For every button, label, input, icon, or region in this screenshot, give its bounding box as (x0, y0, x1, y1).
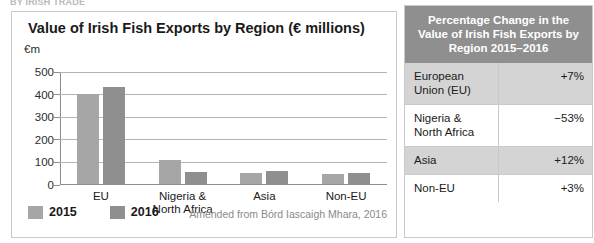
chart-panel: Value of Irish Fish Exports by Region (€… (11, 11, 397, 238)
table-cell-value: +3% (499, 175, 593, 203)
bar-2016-eu (103, 87, 125, 184)
y-tick-mark (54, 162, 60, 163)
bar-2015-asia (240, 173, 262, 184)
table-cell-region: Nigeria & North Africa (405, 105, 499, 147)
legend-item-2015: 2015 (28, 205, 77, 219)
bar-2015-nigerianorthafrica (159, 160, 181, 184)
table-cell-value: +12% (499, 147, 593, 175)
y-tick-label: 200 (35, 134, 54, 146)
y-tick-mark (54, 185, 60, 186)
gridline (60, 72, 387, 73)
legend-label-2016: 2016 (131, 205, 159, 219)
table-cell-value: −53% (499, 105, 593, 147)
bar-2016-nigerianorthafrica (185, 172, 207, 184)
y-tick-mark (54, 94, 60, 95)
x-axis-line (60, 184, 387, 185)
y-tick-label: 300 (35, 111, 54, 123)
bar-2016-asia (266, 171, 288, 184)
bar-2015-eu (77, 94, 99, 184)
y-axis-label: €m (24, 43, 40, 55)
y-tick-mark (54, 139, 60, 140)
chart-title: Value of Irish Fish Exports by Region (€… (28, 20, 365, 36)
y-axis-line (60, 72, 61, 185)
table-row: Nigeria & North Africa−53% (405, 105, 592, 147)
y-tick-mark (54, 117, 60, 118)
table-row: Non-EU+3% (405, 175, 592, 203)
table-cell-region: Non-EU (405, 175, 499, 203)
x-tick-label: Non-EU (294, 190, 398, 203)
table-row: Asia+12% (405, 147, 592, 175)
bar-2016-noneu (348, 173, 370, 184)
legend-swatch-2015 (28, 206, 43, 219)
running-header: BY IRISH TRADE (10, 0, 85, 6)
percentage-change-table-panel: Percentage Change in the Value of Irish … (404, 5, 593, 238)
y-tick-mark (54, 72, 60, 73)
plot-area: 0100200300400500EUNigeria &North AfricaA… (60, 72, 387, 185)
table-body: European Union (EU)+7%Nigeria & North Af… (405, 63, 592, 202)
table-header-row: Percentage Change in the Value of Irish … (405, 6, 592, 63)
source-attribution: Amended from Bórd Iascaigh Mhara, 2016 (189, 208, 387, 220)
legend-swatch-2016 (110, 206, 125, 219)
bar-2015-noneu (322, 174, 344, 184)
y-tick-label: 100 (35, 156, 54, 168)
y-tick-label: 400 (35, 89, 54, 101)
y-tick-label: 500 (35, 66, 54, 78)
legend-label-2015: 2015 (49, 205, 77, 219)
percentage-change-table: Percentage Change in the Value of Irish … (405, 6, 592, 202)
figure-container: BY IRISH TRADE Value of Irish Fish Expor… (0, 0, 594, 243)
table-head: Percentage Change in the Value of Irish … (405, 6, 592, 63)
table-cell-region: European Union (EU) (405, 63, 499, 105)
table-row: European Union (EU)+7% (405, 63, 592, 105)
chart-legend: 2015 2016 (28, 205, 159, 219)
table-header-title: Percentage Change in the Value of Irish … (405, 6, 592, 63)
legend-item-2016: 2016 (110, 205, 159, 219)
table-cell-region: Asia (405, 147, 499, 175)
table-cell-value: +7% (499, 63, 593, 105)
